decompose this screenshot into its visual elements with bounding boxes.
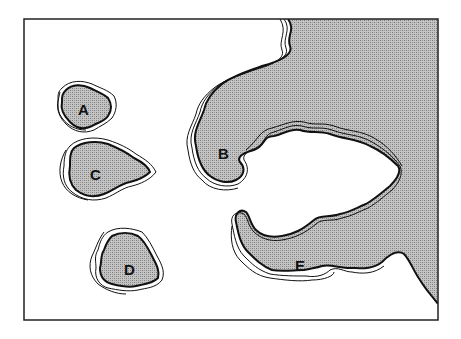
landmass-b-e-fill (195, 19, 438, 304)
label-b: B (218, 145, 229, 162)
island-c-fill (69, 142, 150, 196)
label-c: C (90, 166, 101, 183)
label-a: A (78, 101, 89, 118)
island-d: D (90, 228, 163, 294)
island-d-fill (100, 233, 159, 287)
map-diagram: A C D B E (0, 0, 461, 339)
label-d: D (124, 261, 135, 278)
island-a: A (57, 81, 116, 132)
label-e: E (295, 257, 305, 274)
island-c: C (60, 138, 156, 200)
